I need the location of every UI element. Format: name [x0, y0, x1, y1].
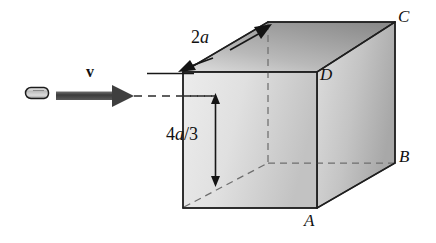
height-dimension-numerator-coefficient: 4	[166, 124, 175, 144]
edge-dimension-arrowhead-lower	[178, 60, 196, 72]
height-dimension-label: 4a/3	[166, 125, 198, 143]
box-front-face	[183, 72, 317, 208]
physics-diagram-figure: C D B A v 2a 4a/3	[0, 0, 436, 243]
velocity-arrow-head	[112, 85, 134, 107]
velocity-arrow	[56, 85, 134, 107]
vertex-label-b: B	[399, 148, 409, 165]
height-dimension-denominator: 3	[189, 124, 198, 144]
edge-dimension-variable: a	[200, 27, 209, 47]
velocity-label: v	[86, 64, 94, 80]
vertex-label-a: A	[304, 212, 314, 229]
edge-dimension-coefficient: 2	[191, 27, 200, 47]
height-dimension-variable: a	[175, 124, 184, 144]
bullet-body	[26, 88, 49, 99]
diagram-canvas	[0, 0, 436, 243]
edge-dimension-label: 2a	[191, 28, 209, 46]
velocity-arrow-shaft	[56, 92, 118, 101]
vertex-label-c: C	[398, 8, 409, 25]
bullet-projectile	[26, 88, 49, 99]
vertex-label-d: D	[320, 66, 332, 83]
